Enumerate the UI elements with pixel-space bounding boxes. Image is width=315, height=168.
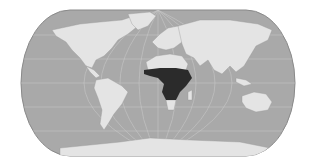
south-africa-tip — [166, 100, 176, 110]
madagascar — [188, 90, 192, 100]
world-map — [0, 0, 315, 168]
